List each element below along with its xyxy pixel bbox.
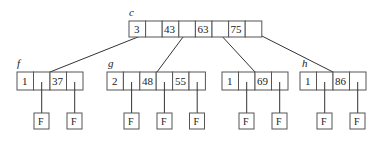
root-key-2: 63	[198, 23, 210, 35]
b-tree-diagram: c 3 43 63 75 f 1 37 F F g	[0, 0, 382, 141]
child-node-g: g 2 48 55 F F F	[107, 57, 205, 129]
child-node-f: f 1 37 F F	[17, 57, 83, 129]
child-node-3: 1 69 F F	[222, 72, 288, 129]
node3-leaf-0: F	[243, 116, 249, 127]
node-label-f: f	[17, 57, 22, 69]
edge-root-to-g	[157, 33, 186, 72]
h-key-0: 1	[305, 75, 311, 87]
node-label-c: c	[129, 6, 134, 18]
node3-leaf-1: F	[276, 116, 282, 127]
f-leaf-1: F	[71, 116, 77, 127]
node-label-g: g	[108, 57, 114, 69]
g-key-2: 55	[175, 75, 187, 87]
g-leaf-1: F	[161, 116, 167, 127]
node-label-h: h	[302, 57, 308, 69]
root-node-c: c 3 43 63 75	[129, 6, 262, 37]
root-key-0: 3	[134, 23, 140, 35]
f-key-1: 37	[52, 75, 64, 87]
edge-root-to-h	[252, 31, 333, 72]
g-key-1: 48	[142, 75, 154, 87]
edge-root-to-node3	[219, 33, 255, 72]
node3-key-0: 1	[227, 75, 233, 87]
root-key-1: 43	[164, 23, 176, 35]
f-key-0: 1	[22, 75, 28, 87]
g-key-0: 2	[112, 75, 118, 87]
g-leaf-0: F	[128, 116, 134, 127]
g-leaf-2: F	[194, 116, 200, 127]
f-leaf-0: F	[38, 116, 44, 127]
h-leaf-0: F	[321, 116, 327, 127]
root-key-3: 75	[231, 23, 243, 35]
h-leaf-1: F	[354, 116, 360, 127]
h-key-1: 86	[335, 75, 347, 87]
node3-key-1: 69	[257, 75, 269, 87]
child-node-h: h 1 86 F F	[300, 57, 366, 129]
